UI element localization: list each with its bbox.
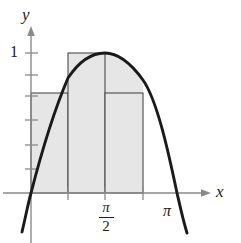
y-tick-label-one: 1 — [10, 44, 18, 60]
rectangle-left — [31, 93, 68, 193]
rectangle-right — [105, 93, 143, 193]
x-axis-label: x — [216, 183, 224, 200]
x-tick-label-pi-over-two: π 2 — [95, 200, 117, 235]
fraction-denominator: 2 — [99, 218, 114, 235]
y-axis-arrowhead — [27, 26, 35, 36]
fraction-numerator: π — [99, 200, 114, 217]
x-tick-label-pi: π — [163, 203, 171, 219]
graph-canvas — [0, 0, 241, 243]
fraction-pi-over-two: π 2 — [99, 200, 114, 235]
rectangle-middle — [68, 53, 105, 193]
figure-container: y x 1 π 2 π — [0, 0, 241, 243]
y-axis-label: y — [22, 6, 30, 23]
x-axis-arrowhead — [201, 189, 211, 197]
